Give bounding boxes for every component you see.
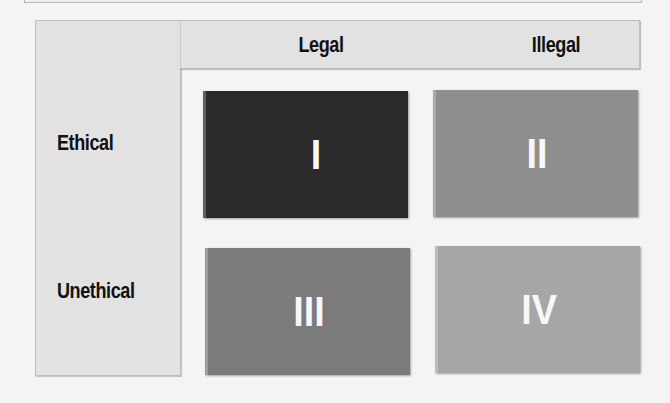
quadrant-ethical-legal: I [203,91,408,218]
row-header-unethical: Unethical [57,278,135,304]
quadrant-unethical-illegal: IV [435,246,640,373]
top-border-strip [24,0,642,3]
row-header-column [35,20,181,376]
column-header-illegal: Illegal [482,21,630,68]
column-header-bar: Legal Illegal [180,20,640,69]
quadrant-numeral: II [446,90,628,217]
quadrant-ethical-illegal: II [433,90,638,217]
column-header-legal: Legal [247,21,395,68]
quadrant-numeral: IV [448,246,630,373]
quadrant-numeral: III [218,248,400,375]
row-header-ethical: Ethical [57,130,113,156]
quadrant-unethical-legal: III [205,248,410,375]
quadrant-numeral: I [216,91,398,218]
